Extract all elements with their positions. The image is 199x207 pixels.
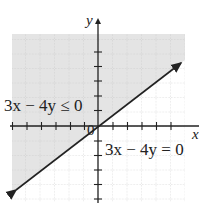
y-axis-arrow-icon: [95, 18, 101, 24]
x-axis-label: x: [192, 126, 199, 143]
origin-label: 0: [87, 122, 95, 139]
y-axis-label: y: [86, 12, 93, 29]
equation-label: 3x − 4y = 0: [105, 140, 184, 160]
inequality-label: 3x − 4y ≤ 0: [4, 96, 82, 116]
